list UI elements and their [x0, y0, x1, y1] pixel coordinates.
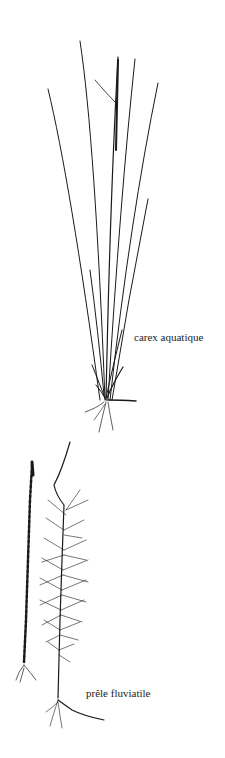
carex-label: carex aquatique — [134, 331, 203, 343]
equisetum-drawing — [0, 0, 225, 758]
botanical-plate: carex aquatique prêle fluviatile — [0, 0, 225, 758]
equisetum-label: prêle fluviatile — [86, 687, 150, 699]
